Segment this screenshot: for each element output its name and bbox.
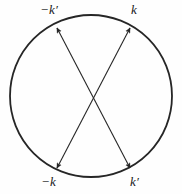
label-k: k bbox=[131, 3, 137, 16]
label-k-prime: k′ bbox=[130, 175, 139, 188]
label-minus-k: −k bbox=[41, 175, 56, 188]
label-minus-k-prime: −k′ bbox=[40, 3, 58, 16]
figure-canvas bbox=[0, 0, 182, 194]
scattering-circle-figure: −k′ k −k k′ bbox=[0, 0, 182, 194]
circle-outline bbox=[10, 15, 172, 177]
